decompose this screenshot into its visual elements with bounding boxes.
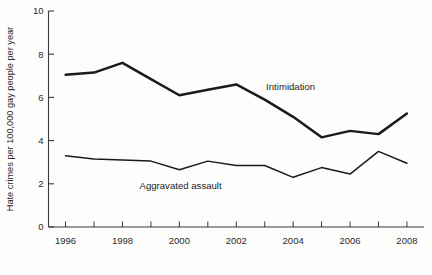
series-label-intimidation: Intimidation [266, 81, 315, 92]
y-axis-tick-label: 2 [38, 178, 43, 189]
y-axis-tick-label: 0 [38, 221, 43, 232]
x-axis-tick-label: 2004 [283, 235, 304, 246]
series-label-aggravated-assault: Aggravated assault [140, 180, 222, 191]
y-axis-tick-label: 6 [38, 92, 43, 103]
x-axis-tick-label: 2000 [169, 235, 190, 246]
chart-canvas: 02468101996199820002002200420062008Hate … [0, 0, 432, 275]
series-line-aggravated-assault [66, 151, 407, 177]
y-axis-title: Hate crimes per 100,000 gay people per y… [5, 27, 15, 211]
y-axis-tick-label: 8 [38, 49, 43, 60]
y-axis-tick-label: 4 [38, 135, 43, 146]
x-axis-tick-label: 1998 [112, 235, 133, 246]
x-axis-tick-label: 1996 [55, 235, 76, 246]
hate-crimes-line-chart: 02468101996199820002002200420062008Hate … [0, 0, 432, 275]
series-line-intimidation [66, 63, 407, 138]
x-axis-tick-label: 2002 [226, 235, 247, 246]
x-axis-tick-label: 2006 [339, 235, 360, 246]
x-axis-tick-label: 2008 [396, 235, 417, 246]
y-axis-tick-label: 10 [33, 5, 44, 16]
